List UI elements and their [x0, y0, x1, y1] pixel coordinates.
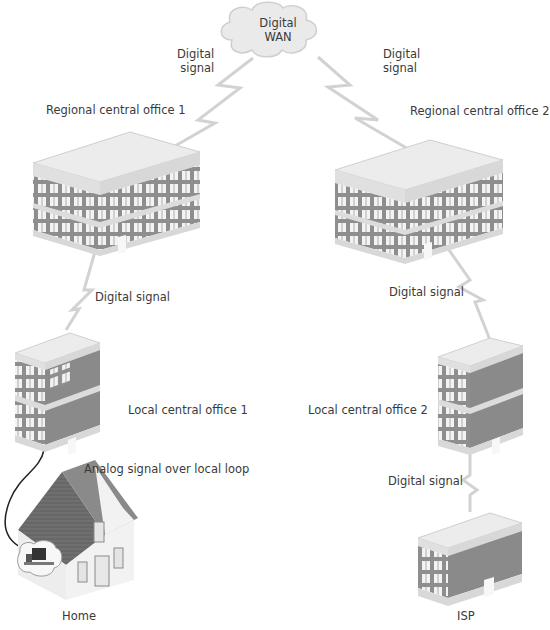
- link-label-regional1-local1: Digital signal: [95, 290, 170, 304]
- wan-cloud-label-line2: WAN: [250, 30, 306, 44]
- link-regional1-local1: [66, 248, 96, 330]
- local-office-2-building: [438, 338, 523, 455]
- regional-office-1-building: [33, 132, 200, 256]
- isp-building: [418, 513, 522, 606]
- link-label-line1: Digital: [383, 47, 420, 61]
- link-local2-isp: [463, 450, 477, 512]
- link-label-wan-regional2: Digital signal: [383, 47, 420, 75]
- link-label-regional2-local2: Digital signal: [389, 285, 464, 299]
- regional-office-2-label: Regional central office 2: [410, 104, 550, 118]
- regional-office-1-label: Regional central office 1: [46, 103, 186, 117]
- link-label-line2: signal: [383, 61, 420, 75]
- local-office-2-label: Local central office 2: [308, 403, 428, 417]
- regional-office-2-building: [335, 140, 503, 264]
- isp-label: ISP: [457, 609, 475, 623]
- link-label-line2: signal: [177, 61, 214, 75]
- wan-cloud-label: Digital WAN: [250, 16, 306, 44]
- link-label-local2-isp: Digital signal: [388, 474, 463, 488]
- link-label-line1: Digital: [177, 47, 214, 61]
- wan-cloud-label-line1: Digital: [250, 16, 306, 30]
- local-office-1-building: [15, 333, 100, 455]
- home-label: Home: [62, 609, 96, 623]
- link-label-wan-regional1: Digital signal: [177, 47, 214, 75]
- link-label-local1-home: Analog signal over local loop: [84, 462, 249, 476]
- home-house-icon: [18, 460, 138, 600]
- local-office-1-label: Local central office 1: [128, 403, 248, 417]
